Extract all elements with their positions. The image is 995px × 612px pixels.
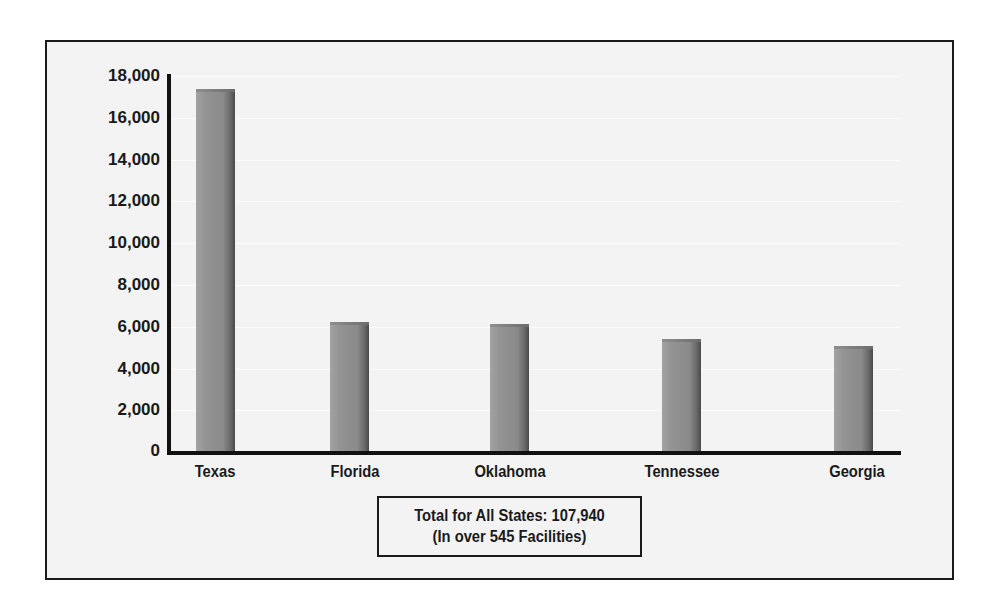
gridline xyxy=(171,369,901,370)
y-axis xyxy=(167,74,171,455)
x-label-florida: Florida xyxy=(281,463,428,481)
gridline xyxy=(171,243,901,244)
total-annotation-line1: Total for All States: 107,940 xyxy=(389,505,629,526)
gridline xyxy=(171,201,901,202)
y-tick-label: 16,000 xyxy=(0,108,160,128)
x-axis xyxy=(167,451,901,455)
y-tick-label: 14,000 xyxy=(0,150,160,170)
x-label-tennessee: Tennessee xyxy=(608,463,755,481)
gridline xyxy=(171,118,901,119)
y-tick-label: 6,000 xyxy=(0,317,160,337)
bar-oklahoma xyxy=(490,324,529,452)
bar-tennessee xyxy=(662,339,701,452)
gridline xyxy=(171,160,901,161)
gridline xyxy=(171,327,901,328)
bar-florida xyxy=(330,322,369,452)
y-tick-label: 0 xyxy=(0,441,160,461)
y-tick-label: 18,000 xyxy=(0,66,160,86)
bar-chart: 18,000 16,000 14,000 12,000 10,000 8,000… xyxy=(0,0,995,612)
y-tick-label: 12,000 xyxy=(0,191,160,211)
total-annotation-line2: (In over 545 Facilities) xyxy=(389,526,629,547)
y-tick-label: 10,000 xyxy=(0,233,160,253)
x-label-georgia: Georgia xyxy=(783,463,930,481)
total-annotation-box: Total for All States: 107,940 (In over 5… xyxy=(377,496,642,557)
gridline xyxy=(171,76,901,77)
y-tick-label: 2,000 xyxy=(0,400,160,420)
gridline xyxy=(171,410,901,411)
y-tick-label: 8,000 xyxy=(0,275,160,295)
bar-georgia xyxy=(834,346,873,452)
bar-texas xyxy=(196,89,235,452)
gridline xyxy=(171,285,901,286)
x-label-oklahoma: Oklahoma xyxy=(436,463,583,481)
y-tick-label: 4,000 xyxy=(0,359,160,379)
x-label-texas: Texas xyxy=(141,463,288,481)
